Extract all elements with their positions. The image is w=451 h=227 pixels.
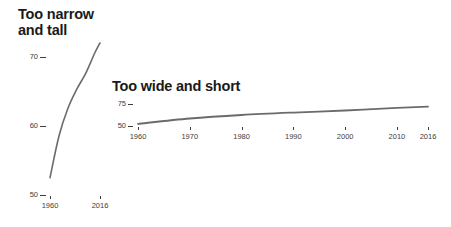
x-axis-tick-label: 1980	[227, 132, 257, 141]
x-axis-tick-label: 1970	[175, 132, 205, 141]
x-axis-tick-label: 2010	[382, 132, 412, 141]
x-axis-tick-mark	[242, 127, 243, 130]
y-axis-tick-mark	[40, 126, 46, 127]
plot-area-wide: 75501960197019801990200020102016	[110, 102, 440, 138]
x-axis-tick-mark	[50, 196, 51, 199]
x-axis-tick-mark	[397, 127, 398, 130]
x-axis-tick-label: 1960	[35, 201, 65, 210]
x-axis-tick-mark	[138, 127, 139, 130]
plot-area-narrow: 50607019602016	[16, 34, 112, 221]
y-axis-tick-mark	[128, 126, 133, 127]
x-axis-tick-label: 2016	[413, 132, 443, 141]
chart-too-narrow-and-tall: Too narrow and tall 50607019602016	[16, 6, 112, 221]
y-axis-tick-label: 70	[16, 52, 38, 61]
x-axis-tick-label: 1960	[123, 132, 153, 141]
x-axis-tick-mark	[293, 127, 294, 130]
chart-title-wide: Too wide and short	[112, 78, 240, 94]
y-axis-tick-label: 50	[16, 190, 38, 199]
y-axis-tick-label: 50	[110, 121, 126, 130]
y-axis-tick-label: 60	[16, 121, 38, 130]
x-axis-tick-mark	[190, 127, 191, 130]
y-axis-tick-mark	[128, 104, 133, 105]
y-axis-tick-mark	[40, 195, 46, 196]
y-axis-tick-mark	[40, 57, 46, 58]
data-line	[138, 107, 428, 124]
data-line	[50, 43, 100, 178]
y-axis-tick-label: 75	[110, 99, 126, 108]
x-axis-tick-mark	[100, 196, 101, 199]
x-axis-tick-label: 2000	[330, 132, 360, 141]
x-axis-tick-mark	[345, 127, 346, 130]
x-axis-tick-label: 1990	[278, 132, 308, 141]
chart-too-wide-and-short: Too wide and short 755019601970198019902…	[110, 78, 440, 138]
x-axis-tick-label: 2016	[85, 201, 115, 210]
x-axis-tick-mark	[428, 127, 429, 130]
